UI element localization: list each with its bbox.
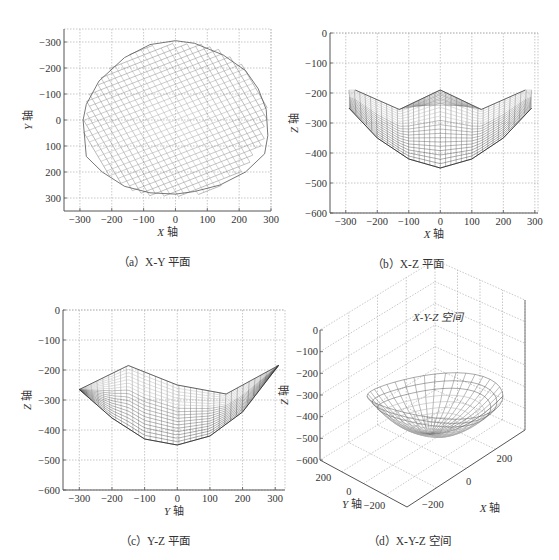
z-tick-label: −400 bbox=[296, 411, 318, 422]
grid bbox=[64, 29, 271, 211]
y-tick-label: −600 bbox=[305, 208, 327, 219]
x-axis-label: X 轴 bbox=[156, 225, 177, 238]
grid bbox=[330, 33, 538, 213]
y-axis-label: Z 轴 bbox=[20, 390, 33, 410]
chart-yz-plane: −300−200−10001002003000−100−200−300−400−… bbox=[0, 290, 280, 560]
x-tick-label: −200 bbox=[422, 499, 444, 510]
mesh-3d bbox=[367, 373, 503, 438]
y-tick-label: −500 bbox=[38, 455, 60, 466]
y-tick-label: −100 bbox=[39, 89, 61, 100]
x-tick-label: −200 bbox=[101, 493, 123, 504]
x-tick-label: −300 bbox=[69, 214, 91, 225]
x-tick-label: 200 bbox=[231, 214, 247, 225]
y-axis-label: Z 轴 bbox=[287, 113, 300, 133]
x-tick-label: −300 bbox=[68, 493, 90, 504]
x-tick-label: 100 bbox=[199, 214, 215, 225]
z-axis-label: Z 轴 bbox=[277, 385, 290, 405]
x-tick-label: 200 bbox=[497, 453, 513, 464]
x-axis bbox=[407, 430, 525, 507]
y-tick-label: −500 bbox=[305, 178, 327, 189]
z-tick-label: −200 bbox=[296, 368, 318, 379]
y-tick-label: 200 bbox=[45, 167, 61, 178]
z-tick-label: 0 bbox=[313, 325, 318, 336]
x-tick-label: 0 bbox=[466, 476, 471, 487]
caption-xy: （a）X-Y 平面 bbox=[118, 253, 190, 269]
y-tick-label: 0 bbox=[55, 305, 60, 316]
x-tick-label: 100 bbox=[202, 493, 218, 504]
y-tick-label: −200 bbox=[38, 365, 60, 376]
y-tick-label: −400 bbox=[38, 425, 60, 436]
z-tick-label: −600 bbox=[296, 455, 318, 466]
mesh-side-b bbox=[349, 90, 532, 168]
z-tick-label: −500 bbox=[296, 433, 318, 444]
y-tick-label: −300 bbox=[38, 395, 60, 406]
caption-yz: （c）Y-Z 平面 bbox=[120, 532, 190, 548]
y-tick-label: 0 bbox=[322, 28, 327, 39]
y-axis-label: Y 轴 bbox=[342, 497, 362, 510]
x-tick-label: 200 bbox=[235, 493, 251, 504]
y-tick-label: 300 bbox=[45, 193, 61, 204]
panel-xy: −300−200−1000100200300−300−200−100010020… bbox=[0, 0, 280, 280]
caption-xyz: （d）X-Y-Z 空间 bbox=[368, 532, 451, 548]
panel-xyz: X-Y-Z 空间 0−100−200−300−400−500−6002000−2… bbox=[280, 290, 559, 560]
y-tick-label: 200 bbox=[315, 472, 331, 483]
y-tick-label: −100 bbox=[305, 58, 327, 69]
chart-xy-plane: −300−200−1000100200300−300−200−100010020… bbox=[0, 0, 280, 280]
panel-yz: −300−200−10001002003000−100−200−300−400−… bbox=[0, 290, 280, 560]
y-tick-label: 0 bbox=[346, 486, 351, 497]
x-axis-label: X 轴 bbox=[479, 501, 500, 514]
chart-xyz-space: 0−100−200−300−400−500−6002000−200−200020… bbox=[280, 290, 559, 560]
y-tick-label: −200 bbox=[39, 63, 61, 74]
panel-xz: −300−200−10001002003000−100−200−300−400−… bbox=[280, 0, 559, 280]
x-tick-label: 300 bbox=[263, 214, 279, 225]
x-tick-label: 300 bbox=[527, 216, 543, 227]
y-tick-label: −300 bbox=[305, 118, 327, 129]
x-axis-label: Y 轴 bbox=[164, 504, 184, 517]
x-tick-label: −100 bbox=[398, 216, 420, 227]
y-tick-label: −200 bbox=[305, 88, 327, 99]
y-tick-label: 100 bbox=[45, 141, 61, 152]
z-tick-label: −100 bbox=[296, 346, 318, 357]
x-tick-label: −200 bbox=[101, 214, 123, 225]
x-tick-label: −100 bbox=[134, 493, 156, 504]
y-tick-label: −400 bbox=[305, 148, 327, 159]
y-tick-label: −300 bbox=[39, 37, 61, 48]
z-tick-label: −300 bbox=[296, 390, 318, 401]
x-tick-label: −300 bbox=[335, 216, 357, 227]
x-tick-label: −100 bbox=[133, 214, 155, 225]
x-tick-label: 0 bbox=[438, 216, 443, 227]
y-tick-label: −100 bbox=[38, 335, 60, 346]
y-tick-label: 0 bbox=[56, 115, 61, 126]
x-axis-label: X 轴 bbox=[423, 227, 444, 240]
x-tick-label: 0 bbox=[175, 493, 180, 504]
y-tick-label: −200 bbox=[364, 500, 386, 511]
mesh-side-c bbox=[79, 366, 278, 446]
y-tick-label: −600 bbox=[38, 485, 60, 496]
x-tick-label: 100 bbox=[464, 216, 480, 227]
y-axis-label: Y 轴 bbox=[21, 110, 34, 130]
x-tick-label: 0 bbox=[173, 214, 178, 225]
3d-box-grid bbox=[320, 260, 525, 495]
chart-xz-plane: −300−200−10001002003000−100−200−300−400−… bbox=[280, 0, 559, 280]
caption-xz: （b）X-Z 平面 bbox=[372, 255, 444, 271]
x-tick-label: 200 bbox=[495, 216, 511, 227]
x-tick-label: −200 bbox=[366, 216, 388, 227]
